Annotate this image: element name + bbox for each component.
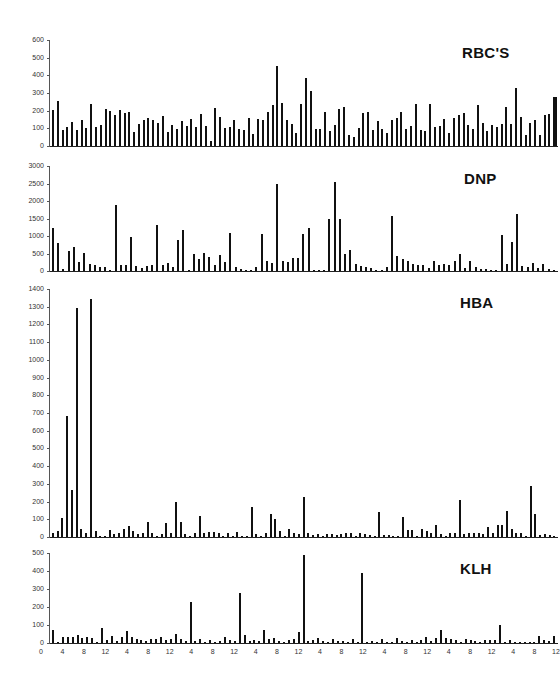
- bar: [543, 640, 545, 643]
- bar: [405, 129, 407, 146]
- bar: [298, 632, 300, 643]
- bar: [392, 536, 394, 538]
- bar: [162, 265, 164, 271]
- bar: [293, 533, 295, 537]
- bar: [293, 639, 295, 643]
- bar: [236, 532, 238, 537]
- bar: [288, 529, 290, 537]
- bar: [52, 228, 54, 271]
- bar: [323, 270, 325, 272]
- bar: [532, 263, 534, 271]
- bar: [66, 416, 68, 537]
- x-tick-label: 8: [533, 648, 537, 655]
- bar: [224, 637, 226, 643]
- bar: [514, 642, 516, 644]
- bar: [120, 265, 122, 271]
- bar: [438, 265, 440, 271]
- bar: [67, 637, 69, 643]
- bar: [68, 251, 70, 271]
- bar: [281, 103, 283, 146]
- bar: [214, 265, 216, 271]
- bar: [533, 642, 535, 644]
- bar: [199, 639, 201, 643]
- bar: [265, 533, 267, 537]
- bar: [443, 119, 445, 146]
- bar: [381, 129, 383, 146]
- bar: [485, 269, 487, 271]
- y-tick-label: 400: [14, 71, 44, 78]
- bar: [190, 602, 192, 643]
- bar: [209, 640, 211, 643]
- bar: [492, 533, 494, 537]
- bar: [171, 125, 173, 146]
- bar: [371, 641, 373, 643]
- bar: [147, 118, 149, 146]
- bar: [130, 237, 132, 271]
- bar: [91, 638, 93, 643]
- bar: [252, 134, 254, 146]
- bar: [525, 135, 527, 146]
- bar: [57, 642, 59, 644]
- bar: [312, 535, 314, 537]
- bar: [288, 640, 290, 643]
- bar: [266, 261, 268, 271]
- y-tick-label: 1200: [14, 320, 44, 327]
- bar: [478, 533, 480, 537]
- x-tick-label: 4: [382, 648, 386, 655]
- bar: [99, 267, 101, 271]
- panel-title-klh: KLH: [460, 560, 492, 577]
- bar: [76, 130, 78, 146]
- bar: [338, 109, 340, 146]
- bar: [147, 522, 149, 537]
- bar: [548, 641, 550, 643]
- y-tick-label: 400: [14, 462, 44, 469]
- x-tick-label: 8: [468, 648, 472, 655]
- bar: [534, 120, 536, 147]
- bar: [369, 535, 371, 537]
- y-tick-mark: [47, 413, 50, 414]
- bar: [544, 534, 546, 537]
- bar: [449, 533, 451, 537]
- y-tick-mark: [47, 519, 50, 520]
- bar: [516, 214, 518, 271]
- bar: [412, 264, 414, 271]
- bar: [188, 270, 190, 272]
- bar: [326, 534, 328, 537]
- bar: [410, 126, 412, 146]
- bar: [421, 529, 423, 537]
- bar: [273, 638, 275, 643]
- bar: [303, 555, 305, 643]
- bar: [176, 129, 178, 146]
- bar: [119, 110, 121, 146]
- bar: [482, 123, 484, 146]
- bar: [62, 637, 64, 643]
- bar: [460, 642, 462, 644]
- bar: [232, 536, 234, 538]
- bar: [544, 115, 546, 146]
- bar: [109, 530, 111, 537]
- bar: [175, 502, 177, 537]
- bar: [249, 641, 251, 643]
- bar: [125, 265, 127, 271]
- bar: [86, 637, 88, 643]
- y-tick-label: 0: [14, 533, 44, 540]
- bar: [388, 535, 390, 537]
- bar: [487, 527, 489, 537]
- bar: [317, 534, 319, 537]
- bar: [504, 642, 506, 644]
- bar: [199, 516, 201, 537]
- y-tick-mark: [47, 537, 50, 538]
- bar: [244, 635, 246, 643]
- bar: [495, 270, 497, 272]
- bar: [539, 135, 541, 146]
- bar: [397, 536, 399, 538]
- bar: [297, 258, 299, 271]
- bar: [336, 535, 338, 537]
- bar: [322, 641, 324, 643]
- bar: [160, 637, 162, 643]
- bar: [214, 642, 216, 644]
- bar: [400, 112, 402, 146]
- bar: [213, 532, 215, 537]
- bar: [448, 265, 450, 271]
- bar: [279, 531, 281, 537]
